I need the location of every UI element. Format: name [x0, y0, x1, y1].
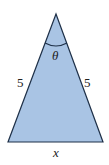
base-label: x [52, 145, 59, 160]
left-side-label: 5 [17, 75, 24, 90]
triangle-diagram: θ 5 5 x [0, 0, 109, 165]
angle-label: θ [52, 48, 59, 63]
right-side-label: 5 [84, 75, 91, 90]
